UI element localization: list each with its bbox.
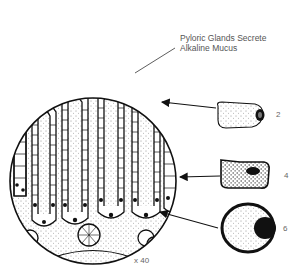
- magnification-label: x 40: [134, 256, 149, 265]
- pointer-arrow-6: [160, 212, 218, 228]
- cell-2-illustration: [218, 102, 265, 128]
- cell-label-6: 6: [283, 224, 287, 233]
- pointer-arrow-2: [162, 102, 216, 108]
- gland-1: [14, 113, 26, 196]
- title-line-2: Alkaline Mucus: [180, 43, 266, 53]
- diagram-title: Pyloric Glands Secrete Alkaline Mucus: [180, 33, 266, 53]
- pointer-arrow-4: [180, 176, 220, 177]
- title-line-1: Pyloric Glands Secrete: [180, 33, 266, 43]
- tissue-section: [10, 87, 180, 264]
- cell-6-illustration: [222, 204, 276, 252]
- cell-label-2: 2: [276, 110, 280, 119]
- title-leader-line: [135, 48, 175, 73]
- acinus-cross-section: [78, 224, 100, 246]
- cell-label-4: 4: [284, 171, 288, 180]
- cell-4-illustration: [221, 160, 269, 188]
